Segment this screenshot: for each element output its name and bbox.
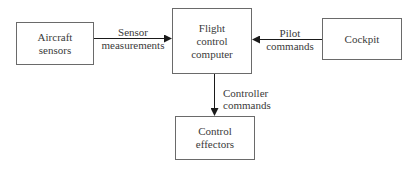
edge-label-controller-commands: Controller commands [223,87,285,111]
node-fcc-line-3: computer [191,48,233,61]
node-fcc-line-2: control [191,35,233,48]
edge-label-line-1: Pilot [262,27,318,39]
node-aircraft-sensors-line-2: sensors [38,44,73,57]
edge-label-line-2: measurements [97,39,169,51]
node-aircraft-sensors-line-1: Aircraft [38,31,73,44]
node-effectors-line-1: Control [196,125,234,138]
node-flight-control-computer: Flight control computer [172,8,252,74]
edge-label-line-2: commands [262,40,318,52]
node-fcc-line-1: Flight [191,22,233,35]
node-cockpit: Cockpit [322,18,402,60]
edge-label-pilot-commands: Pilot commands [262,27,318,52]
edge-label-line-2: commands [223,99,285,111]
node-cockpit-line-1: Cockpit [345,33,380,46]
edge-label-sensor-measurements: Sensor measurements [97,26,169,51]
edge-label-line-1: Sensor [97,26,169,38]
node-aircraft-sensors: Aircraft sensors [16,22,94,65]
node-control-effectors: Control effectors [175,116,255,160]
node-effectors-line-2: effectors [196,138,234,151]
edge-label-line-1: Controller [223,87,285,99]
